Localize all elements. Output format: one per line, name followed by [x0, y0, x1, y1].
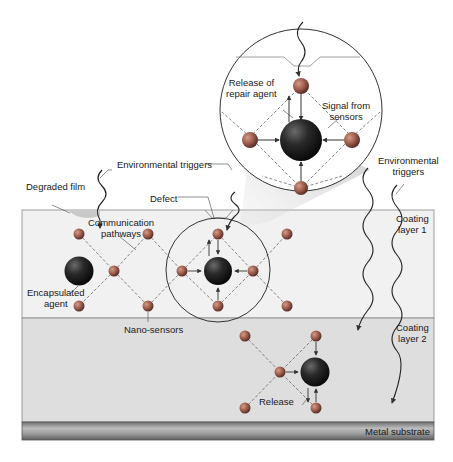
- label-line: agent: [27, 298, 85, 309]
- sensor-node: [143, 301, 154, 312]
- label-line: Communication: [88, 217, 154, 228]
- sensor-node: [311, 331, 322, 342]
- label-signal-from-sensors: Signal from sensors: [322, 100, 370, 122]
- sensor-node: [275, 367, 286, 378]
- repair-agent-capsule: [204, 257, 232, 285]
- label-line: triggers: [378, 166, 439, 177]
- sensor-node: [240, 331, 251, 342]
- label-line: Coating: [396, 213, 429, 224]
- sensor-node: [248, 266, 259, 277]
- label-line: layer 1: [396, 224, 429, 235]
- label-line: Release of: [226, 77, 277, 88]
- label-line: pathways: [88, 228, 154, 239]
- label-line: Coating: [396, 322, 429, 333]
- repair-agent-capsule: [280, 119, 322, 161]
- label-encapsulated-agent: Encapsulated agent: [27, 287, 85, 309]
- sensor-node: [213, 229, 224, 240]
- diagram-canvas: Release of repair agent Signal from sens…: [0, 0, 453, 462]
- label-release-repair-agent: Release of repair agent: [226, 77, 277, 99]
- label-line: Encapsulated: [27, 287, 85, 298]
- label-environmental-triggers-left: Environmental triggers: [117, 159, 212, 170]
- sensor-node: [109, 266, 120, 277]
- sensor-node: [177, 266, 188, 277]
- sensor-node: [344, 132, 360, 148]
- label-metal-substrate: Metal substrate: [360, 426, 430, 437]
- diagram-graphics: [0, 0, 453, 462]
- label-degraded-film: Degraded film: [26, 181, 85, 192]
- sensor-node: [213, 301, 224, 312]
- sensor-node: [294, 181, 308, 195]
- label-line: layer 2: [396, 333, 429, 344]
- sensor-node: [282, 301, 293, 312]
- label-nano-sensors: Nano-sensors: [124, 324, 183, 335]
- label-line: sensors: [322, 111, 370, 122]
- label-line: Environmental: [378, 155, 439, 166]
- label-line: repair agent: [226, 88, 277, 99]
- sensor-node: [311, 403, 322, 414]
- coating-layer-2: [22, 318, 434, 422]
- label-defect: Defect: [150, 193, 177, 204]
- sensor-node: [282, 229, 293, 240]
- sensor-node: [242, 132, 258, 148]
- label-coating-layer-1: Coating layer 1: [396, 213, 429, 235]
- sensor-node: [293, 78, 309, 94]
- label-release: Release: [259, 396, 294, 407]
- label-communication-pathways: Communication pathways: [88, 217, 154, 239]
- repair-agent-capsule: [301, 358, 330, 387]
- encapsulated-agent: [65, 257, 94, 286]
- label-environmental-triggers-right: Environmental triggers: [378, 155, 439, 177]
- sensor-node: [240, 403, 251, 414]
- label-line: Signal from: [322, 100, 370, 111]
- sensor-node: [74, 229, 85, 240]
- label-coating-layer-2: Coating layer 2: [396, 322, 429, 344]
